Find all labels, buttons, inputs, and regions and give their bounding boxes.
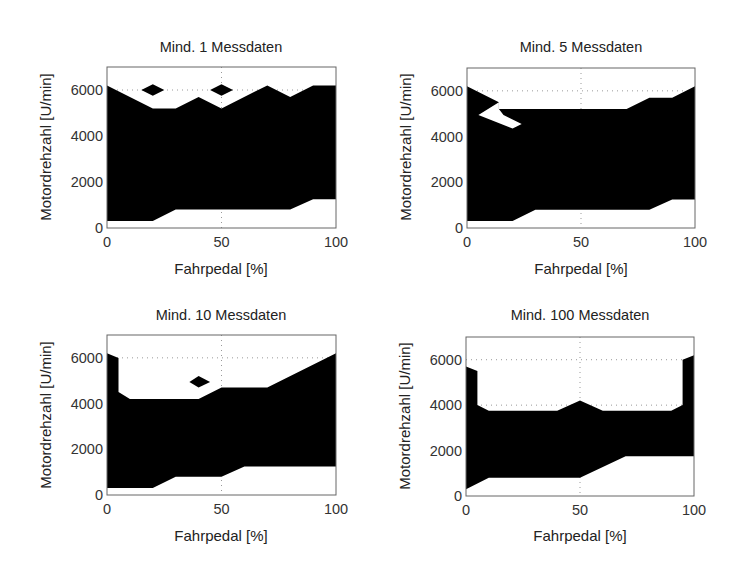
figure: Mind. 1 Messdaten 0501000200040006000 Fa… <box>0 0 735 579</box>
y-tick-label: 6000 <box>430 352 462 368</box>
x-axis-label: Fahrpedal [%] <box>533 527 626 544</box>
y-tick-label: 6000 <box>71 82 103 98</box>
y-axis-label: Motordrehzahl [U/min] <box>37 341 54 489</box>
y-tick-label: 0 <box>455 220 463 236</box>
subplot-mind-1: Mind. 1 Messdaten 0501000200040006000 Fa… <box>37 39 348 277</box>
x-tick-label: 100 <box>324 501 348 517</box>
x-tick-label: 100 <box>683 234 707 250</box>
y-tick-label: 4000 <box>71 396 103 412</box>
plot-area: 0501000200040006000 <box>71 67 348 250</box>
operating-region <box>107 85 336 221</box>
y-tick-label: 2000 <box>430 443 462 459</box>
x-tick-label: 100 <box>324 234 348 250</box>
x-tick-label: 50 <box>572 502 588 518</box>
subplot-mind-100: Mind. 100 Messdaten 0501000200040006000 … <box>396 307 706 544</box>
x-tick-label: 50 <box>573 234 589 250</box>
plot-area: 0501000200040006000 <box>71 335 348 517</box>
operating-region <box>466 355 694 489</box>
subplot-title: Mind. 10 Messdaten <box>156 307 287 323</box>
x-tick-label: 100 <box>682 502 706 518</box>
y-tick-label: 6000 <box>71 350 103 366</box>
y-axis-label: Motordrehzahl [U/min] <box>396 342 413 490</box>
region-island <box>141 84 164 96</box>
y-tick-label: 6000 <box>431 83 463 99</box>
y-tick-label: 2000 <box>71 441 103 457</box>
subplot-mind-10: Mind. 10 Messdaten 0501000200040006000 F… <box>37 307 348 544</box>
x-tick-label: 0 <box>462 502 470 518</box>
operating-region <box>467 86 695 221</box>
y-tick-label: 2000 <box>71 174 103 190</box>
x-tick-label: 0 <box>103 234 111 250</box>
subplot-title: Mind. 100 Messdaten <box>511 307 650 323</box>
y-tick-label: 4000 <box>431 129 463 145</box>
region-island <box>189 376 210 388</box>
x-tick-label: 50 <box>213 234 229 250</box>
region-island <box>210 84 233 96</box>
plot-area: 0501000200040006000 <box>431 68 707 250</box>
y-tick-label: 0 <box>95 487 103 503</box>
y-tick-label: 0 <box>95 220 103 236</box>
subplot-title: Mind. 1 Messdaten <box>160 39 283 55</box>
subplot-title: Mind. 5 Messdaten <box>520 39 643 55</box>
x-axis-label: Fahrpedal [%] <box>174 527 267 544</box>
y-tick-label: 4000 <box>71 128 103 144</box>
x-axis-label: Fahrpedal [%] <box>534 260 627 277</box>
operating-region <box>107 353 336 488</box>
x-tick-label: 50 <box>213 501 229 517</box>
x-tick-label: 0 <box>103 501 111 517</box>
y-axis-label: Motordrehzahl [U/min] <box>397 73 414 221</box>
y-axis-label: Motordrehzahl [U/min] <box>37 73 54 221</box>
x-axis-label: Fahrpedal [%] <box>174 260 267 277</box>
plot-area: 0501000200040006000 <box>430 337 706 518</box>
y-tick-label: 2000 <box>431 174 463 190</box>
y-tick-label: 4000 <box>430 397 462 413</box>
y-tick-label: 0 <box>454 488 462 504</box>
x-tick-label: 0 <box>463 234 471 250</box>
subplot-mind-5: Mind. 5 Messdaten 0501000200040006000 Fa… <box>397 39 707 277</box>
